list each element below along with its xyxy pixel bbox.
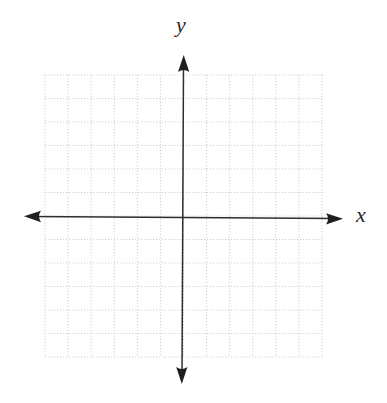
y-axis-label: y xyxy=(176,14,186,36)
arrow-up-icon xyxy=(178,55,189,72)
arrow-down-icon xyxy=(176,367,187,384)
arrow-left-icon xyxy=(24,211,41,222)
arrow-right-icon xyxy=(326,213,343,224)
axes xyxy=(24,55,343,384)
coordinate-plane-graphic xyxy=(0,0,387,403)
x-axis-label: x xyxy=(356,204,366,226)
